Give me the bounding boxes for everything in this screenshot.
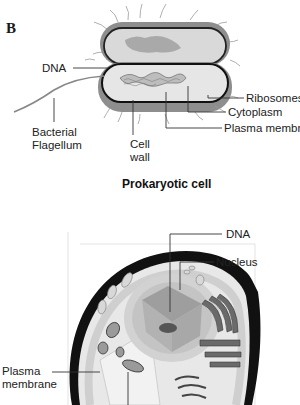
label-nucleus: Nucleus <box>216 256 258 269</box>
label-bacterial-flagellum-line1: Bacterial <box>32 126 82 139</box>
label-eukaryote-dna: DNA <box>226 228 250 241</box>
label-cytoplasm: Cytoplasm <box>228 106 282 119</box>
label-plasma-membrane-prokaryote: Plasma membrane <box>224 122 300 135</box>
cell-diagram-art <box>0 0 300 405</box>
caption-prokaryotic-cell: Prokaryotic cell <box>122 177 211 191</box>
label-plasma-membrane-eukaryote: Plasma membrane <box>2 365 57 391</box>
label-prokaryote-dna: DNA <box>42 62 66 75</box>
label-ribosomes: Ribosomes <box>246 92 300 105</box>
panel-letter: B <box>6 20 16 37</box>
label-plasma-membrane-eukaryote-line2: membrane <box>2 378 57 391</box>
label-cell-wall: Cell wall <box>130 138 150 164</box>
label-bacterial-flagellum: Bacterial Flagellum <box>32 126 82 152</box>
label-plasma-membrane-eukaryote-line1: Plasma <box>2 365 57 378</box>
label-bacterial-flagellum-line2: Flagellum <box>32 139 82 152</box>
label-cell-wall-line1: Cell <box>130 138 150 151</box>
label-cell-wall-line2: wall <box>130 151 150 164</box>
